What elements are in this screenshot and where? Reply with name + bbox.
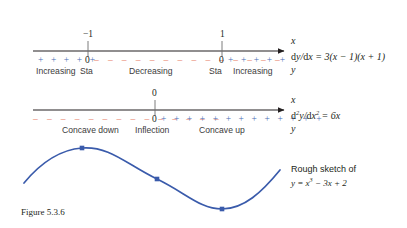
axis-variable-x-second: x [291, 95, 295, 105]
zero-marker-inflection: 0 [152, 115, 157, 125]
cubic-curve [24, 146, 280, 212]
region-label-stationary-left: Sta [80, 67, 93, 76]
region-label-concave-down: Concave down [62, 126, 119, 135]
formula-second-derivative: d2y/dx2 = 6x [291, 110, 340, 121]
axis-variable-y-first: y [291, 65, 295, 75]
sketch-note-line-1: Rough sketch of [291, 163, 356, 176]
axis-variable-y-second: y [291, 124, 295, 134]
tick-label-one: 1 [220, 30, 225, 40]
axis-variable-x-first: x [291, 36, 295, 46]
region-label-stationary-right: Sta [209, 67, 222, 76]
tick-label-neg-one: −1 [83, 30, 93, 40]
sketch-note-equation: y = x3 − 3x + 2 [291, 176, 356, 190]
curve-point-minimum [220, 207, 225, 212]
curve-point-inflection [155, 177, 160, 182]
region-label-inflection: Inflection [135, 126, 169, 135]
tick-label-zero: 0 [152, 89, 157, 99]
zero-marker-one: 0 [219, 56, 224, 66]
figure-5-3-6: −1 1 + + + + + 0 – – – – – – – – – – – –… [0, 0, 407, 228]
region-label-decreasing: Decreasing [129, 67, 172, 76]
sketch-annotation: Rough sketch of y = x3 − 3x + 2 [291, 163, 356, 190]
region-label-increasing-left: Increasing [36, 67, 76, 76]
zero-marker-neg-one: 0 [85, 56, 90, 66]
figure-caption: Figure 5.3.6 [21, 208, 65, 217]
formula-first-derivative: dy/dx = 3(x − 1)(x + 1) [291, 52, 385, 62]
curve-point-maximum [80, 146, 85, 151]
region-label-increasing-right: Increasing [233, 67, 273, 76]
region-label-concave-up: Concave up [199, 126, 245, 135]
sign-row-positive-right: + + + + + [228, 56, 288, 66]
